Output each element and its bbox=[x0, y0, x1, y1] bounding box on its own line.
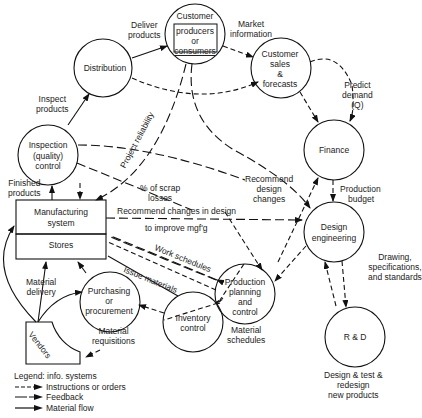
material-delivery-label: Materialdelivery bbox=[26, 277, 56, 297]
finished-products-label: Finishedproducts bbox=[8, 178, 41, 198]
market-information-label: Marketinformation bbox=[230, 19, 272, 39]
solid-arrow-icon bbox=[14, 404, 44, 412]
production-budget-label: Productionbudget bbox=[340, 184, 381, 204]
sales-line3: & bbox=[277, 69, 283, 79]
inspect-products-label: Inspectproducts bbox=[36, 94, 69, 114]
sales-line4: forecasts bbox=[263, 79, 298, 89]
inventory-line2: control bbox=[180, 323, 206, 333]
production-line2: planning bbox=[229, 287, 261, 297]
recommend-design-changes-label: Recommenddesignchanges bbox=[245, 174, 293, 204]
legend-item-feedback: Feedback bbox=[14, 392, 126, 403]
inspection-line2: (quality) bbox=[33, 151, 63, 161]
predict-demand-label: Predictdemand(Q) bbox=[342, 80, 373, 110]
sales-line2: sales bbox=[270, 59, 290, 69]
dashed-arrow-icon bbox=[14, 383, 44, 391]
scrap-losses-label: % of scraplosses bbox=[140, 183, 180, 203]
stores-label: Stores bbox=[49, 240, 74, 250]
customer-title: Customer bbox=[177, 11, 214, 21]
legend: Legend: info. systems Instructions or or… bbox=[14, 371, 126, 413]
legend-title: Legend: info. systems bbox=[14, 371, 126, 382]
material-requisitions-label: Materialrequisitions bbox=[92, 326, 135, 346]
distribution-label: Distribution bbox=[84, 63, 127, 73]
improve-mfg-label: to improve mgf'g bbox=[145, 223, 208, 233]
production-line3: and bbox=[238, 297, 252, 307]
finance-label: Finance bbox=[319, 145, 349, 155]
manufacturing-line2: system bbox=[48, 218, 75, 228]
design-line1: Design bbox=[321, 222, 347, 232]
drawing-specs-label: Drawing,specifications,and standards bbox=[368, 252, 422, 282]
long-dash-arrow-icon bbox=[14, 393, 44, 401]
production-line4: control bbox=[232, 307, 258, 317]
rnd-caption: Design & test &redesignnew products bbox=[324, 370, 383, 400]
manufacturing-box bbox=[16, 200, 106, 234]
legend-item-material-flow: Material flow bbox=[14, 403, 126, 414]
recommend-changes-label: Recommend changes in design bbox=[117, 206, 236, 216]
legend-item-instructions: Instructions or orders bbox=[14, 382, 126, 393]
deliver-products-label: Deliverproducts bbox=[128, 20, 161, 40]
material-schedules-label: Materialschedules bbox=[227, 325, 265, 345]
purchasing-line3: procurement bbox=[85, 306, 133, 316]
sales-line1: Customer bbox=[262, 49, 299, 59]
manufacturing-line1: Manufacturing bbox=[34, 207, 88, 217]
customer-line1: producers bbox=[176, 26, 214, 36]
inspection-line1: Inspection bbox=[29, 140, 68, 150]
inspection-line3: control bbox=[35, 161, 61, 171]
inventory-line1: Inventory bbox=[176, 313, 211, 323]
purchasing-line2: or bbox=[105, 296, 113, 306]
design-line2: engineering bbox=[312, 233, 356, 243]
design-node bbox=[304, 202, 364, 262]
customer-line3: consumers bbox=[174, 46, 216, 56]
production-line1: Production bbox=[225, 277, 266, 287]
rnd-label: R & D bbox=[344, 332, 367, 342]
purchasing-line1: Purchasing bbox=[88, 286, 131, 296]
customer-line2: or bbox=[191, 36, 199, 46]
